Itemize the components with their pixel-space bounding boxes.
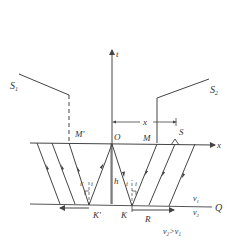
right-angle-k [132,191,136,195]
label-h: h [114,176,119,186]
x-axis [30,143,215,145]
left-ray-1 [37,143,60,204]
label-m-prime: M' [74,129,85,139]
label-v2: v2 [193,208,200,218]
label-angle-i-right-b: i [135,180,137,188]
label-v1: v1 [193,194,199,204]
label-k-prime: K' [92,210,102,220]
label-q: Q [215,202,223,213]
label-s2: S2 [210,84,218,96]
label-m: M [142,133,151,143]
ray-k-m [132,144,157,206]
label-x-axis: x [216,140,221,150]
label-k: K [120,210,128,220]
label-velocity-condition: v₂>v₁ [163,227,181,236]
label-angle-i-right-a: i [126,180,128,188]
refraction-diagram: S1 S2 t x x O M M' S h i' i i i K' K R Q… [0,0,237,250]
interface-q [30,204,212,207]
label-x-offset: x [142,117,147,127]
label-s-source: S [179,127,184,137]
s1-curve [19,74,69,95]
ray-kprime-o [89,144,112,205]
label-r: R [144,214,151,224]
label-o: O [114,132,121,142]
label-s1: S1 [10,80,18,92]
right-ray-2 [169,144,195,206]
label-t: t [116,49,119,59]
label-angle-i-prime-left: i' [80,180,84,188]
ray-o-k [112,144,132,206]
label-angle-i-left: i [91,180,93,188]
